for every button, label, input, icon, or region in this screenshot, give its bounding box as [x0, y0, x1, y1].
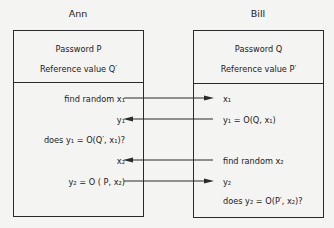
arrow-y1-bill-to-ann [123, 117, 213, 122]
message-arrows [0, 0, 334, 228]
arrow-y2-ann-to-bill [124, 179, 214, 184]
arrow-x2-bill-to-ann [123, 158, 213, 163]
arrow-x1-ann-to-bill [124, 96, 214, 101]
